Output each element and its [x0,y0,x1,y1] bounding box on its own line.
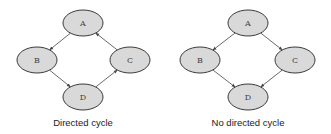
node-label: D [80,93,86,102]
node-b: B [180,47,220,73]
edge-d-to-c [96,70,118,87]
edge-c-to-d [261,70,283,87]
node-c: C [110,47,150,73]
node-label: A [244,19,251,28]
edge-b-to-d [213,70,235,87]
no-directed-cycle-graph: ABCDNo directed cycle [180,10,315,128]
node-label: D [245,93,251,102]
node-label: B [197,56,203,65]
node-label: C [127,56,133,65]
edge-a-to-c [261,33,283,50]
node-label: A [79,19,86,28]
node-c: C [275,47,315,73]
edge-a-to-b [50,33,71,50]
edge-b-to-d [50,70,71,87]
directed-cycle-graph: ABCDDirected cycle [17,10,150,128]
node-a: A [228,10,268,36]
diagram-canvas: ABCDDirected cycle ABCDNo directed cycle [0,0,331,134]
node-a: A [63,10,103,36]
edge-c-to-a [96,33,118,50]
node-d: D [63,84,103,110]
diagram-caption: Directed cycle [53,117,113,128]
edge-a-to-b [213,33,235,50]
node-label: C [292,56,298,65]
node-label: B [34,56,40,65]
node-b: B [17,47,57,73]
diagram-caption: No directed cycle [212,117,285,128]
node-d: D [228,84,268,110]
